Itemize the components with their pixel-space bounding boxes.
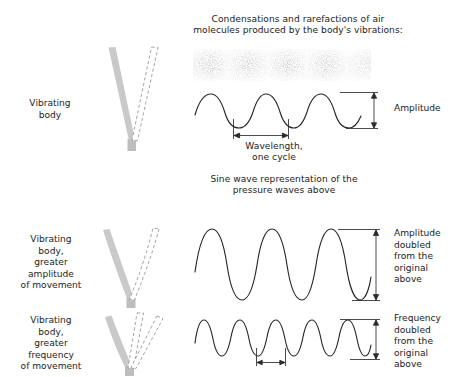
frequency-bracket-row3: [340, 316, 396, 366]
body-base-row1: [128, 139, 137, 151]
wavelength-marker-row3: [253, 348, 313, 370]
amplitude-arrow-up-row2: [373, 230, 378, 235]
wavelength-bracket-svg: [230, 119, 350, 143]
frequency-bracket-svg-row3: [340, 316, 396, 366]
row3-right-line-2: doubled: [394, 325, 454, 337]
row2-right-line-5: above: [394, 274, 454, 286]
row3-label-line-3: greater: [5, 338, 97, 350]
subcaption-line-1: Sine wave representation of the: [187, 174, 381, 185]
top-caption-line-2: molecules produced by the body's vibrati…: [183, 25, 413, 36]
frequency-arrow-up-row3: [373, 320, 378, 325]
row3-label-line-4: frequency: [5, 350, 97, 362]
frequency-doubled-label-row3: Frequency doubled from the original abov…: [394, 313, 454, 371]
vibrating-body-illustration-row3: [97, 310, 179, 377]
vibrating-body-illustration-row2: [97, 226, 179, 310]
amplitude-arrow-down-row2: [373, 295, 378, 300]
row2-label-line-5: of movement: [5, 280, 97, 292]
sine-wave-subcaption: Sine wave representation of the pressure…: [187, 174, 381, 197]
row2-right-line-2: doubled: [394, 240, 454, 252]
row2-label-line-4: amplitude: [5, 269, 97, 281]
body-ghost-outline-row2: [130, 228, 160, 300]
row2-label-line-2: body,: [5, 246, 97, 258]
row2-right-line-1: Amplitude: [394, 228, 454, 240]
row2-right-line-3: from the: [394, 251, 454, 263]
frequency-arrow-down-row3: [373, 354, 378, 359]
row3-label-line-5: of movement: [5, 361, 97, 373]
wavelength-label: Wavelength, one cycle: [214, 141, 334, 164]
row1-label-line-2: body: [8, 110, 92, 122]
subcaption-line-2: pressure waves above: [187, 185, 381, 196]
top-caption-line-1: Condensations and rarefactions of air: [183, 14, 413, 25]
wavelength-arrow-left: [234, 133, 240, 138]
stipple-band: [193, 49, 371, 81]
amplitude-arrow-down-row1: [371, 123, 376, 128]
row3-label-line-2: body,: [5, 327, 97, 339]
body-solid-bar-row3: [105, 316, 132, 369]
vibrating-body-svg-row3: [97, 310, 179, 377]
top-caption: Condensations and rarefactions of air mo…: [183, 14, 413, 37]
amplitude-label-row1: Amplitude: [394, 103, 454, 115]
row3-right-line-1: Frequency: [394, 313, 454, 325]
wavelength-label-line-2: one cycle: [214, 152, 334, 163]
body-solid-bar-row2: [103, 229, 134, 300]
row1-label-line-1: Vibrating: [8, 98, 92, 110]
row-label-greater-frequency: Vibrating body, greater frequency of mov…: [5, 315, 97, 373]
body-solid-bar-row1: [109, 47, 136, 141]
row3-right-line-5: above: [394, 359, 454, 371]
wavelength-label-line-1: Wavelength,: [214, 141, 334, 152]
sound-wave-diagram: Condensations and rarefactions of air mo…: [0, 0, 454, 377]
row-label-greater-amplitude: Vibrating body, greater amplitude of mov…: [5, 234, 97, 292]
vibrating-body-svg-row2: [97, 226, 179, 310]
row2-label-line-1: Vibrating: [5, 234, 97, 246]
amplitude-arrow-up-row1: [371, 93, 376, 98]
amplitude-bracket-row2: [338, 226, 396, 306]
wavelength-marker-arrow-right-row3: [280, 360, 285, 364]
row2-label-line-3: greater: [5, 257, 97, 269]
row3-label-line-1: Vibrating: [5, 315, 97, 327]
amplitude-label-text-row1: Amplitude: [394, 103, 454, 115]
wavelength-marker-svg-row3: [253, 348, 313, 370]
wavelength-bracket: [230, 119, 350, 143]
amplitude-bracket-svg-row2: [338, 226, 396, 306]
row-label-vibrating-body: Vibrating body: [8, 98, 92, 121]
wavelength-marker-arrow-left-row3: [257, 360, 262, 364]
body-ghost-outline-row1: [132, 47, 158, 141]
vibrating-body-illustration-row1: [99, 44, 177, 156]
row3-right-line-3: from the: [394, 336, 454, 348]
stipple-band-svg: [193, 49, 371, 81]
wavelength-arrow-right: [282, 133, 288, 138]
row2-right-line-4: original: [394, 263, 454, 275]
vibrating-body-svg-row1: [99, 44, 177, 156]
amplitude-doubled-label-row2: Amplitude doubled from the original abov…: [394, 228, 454, 286]
row3-right-line-4: original: [394, 348, 454, 360]
